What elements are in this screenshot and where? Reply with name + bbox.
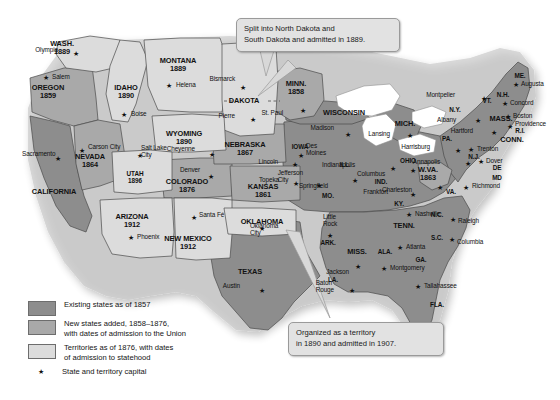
legend-label-new: New states added, 1858–1876, with dates …: [64, 319, 186, 340]
new-state-swatch: [28, 320, 56, 335]
dakota-callout: Split into North Dakota and South Dakota…: [236, 18, 400, 52]
state-kansas: [230, 166, 300, 202]
territory-montana: [144, 38, 228, 112]
legend-label-existing: Existing states as of 1857: [64, 300, 151, 310]
legend-item-existing-states: Existing states as of 1857: [28, 300, 268, 316]
map-legend: Existing states as of 1857 New states ad…: [28, 300, 268, 380]
territory-wyoming: [152, 114, 226, 152]
historical-us-map: Split into North Dakota and South Dakota…: [0, 0, 560, 400]
territory-arizona: [100, 198, 174, 258]
territory-oklahoma: [224, 208, 296, 236]
legend-item-capital: ★ State and territory capital: [28, 367, 268, 377]
oklahoma-callout: Organized as a territory in 1890 and adm…: [288, 322, 444, 356]
territory-utah: [112, 150, 172, 194]
territory-swatch: [28, 344, 56, 359]
legend-label-territories: Territories as of 1876, with dates of ad…: [64, 343, 173, 364]
legend-label-capital: State and territory capital: [62, 367, 146, 377]
star-icon: ★: [28, 368, 54, 376]
existing-state-swatch: [28, 301, 56, 316]
legend-item-territories: Territories as of 1876, with dates of ad…: [28, 343, 268, 364]
legend-item-new-states: New states added, 1858–1876, with dates …: [28, 319, 268, 340]
territory-new-mexico: [174, 198, 232, 260]
